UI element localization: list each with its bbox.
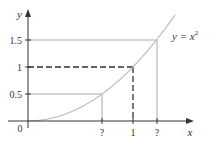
origin-label: 0 xyxy=(18,123,23,134)
x-axis-label: x xyxy=(187,126,193,138)
y-tick-label-0-5: 0.5 xyxy=(10,89,23,100)
x-tick-label-1-22: ? xyxy=(155,127,160,138)
y-axis-arrow-icon xyxy=(25,9,31,17)
curve-label: y = x2 xyxy=(171,29,199,42)
curve-label-base: y = x xyxy=(171,30,195,42)
curve-label-exponent: 2 xyxy=(195,29,199,37)
x-axis-arrow-icon xyxy=(186,118,194,124)
x-tick-label-0-7: ? xyxy=(100,127,105,138)
y-axis-label: y xyxy=(16,8,22,20)
guide-lines xyxy=(28,40,157,121)
y-tick-label-1-5: 1.5 xyxy=(10,35,23,46)
x-tick-label-1: 1 xyxy=(131,127,136,138)
graph-svg: y 1.5 1 0.5 0 ? 1 ? x y = x2 xyxy=(0,0,210,142)
function-graph: y 1.5 1 0.5 0 ? 1 ? x y = x2 xyxy=(0,0,210,142)
y-tick-label-1: 1 xyxy=(17,62,22,73)
